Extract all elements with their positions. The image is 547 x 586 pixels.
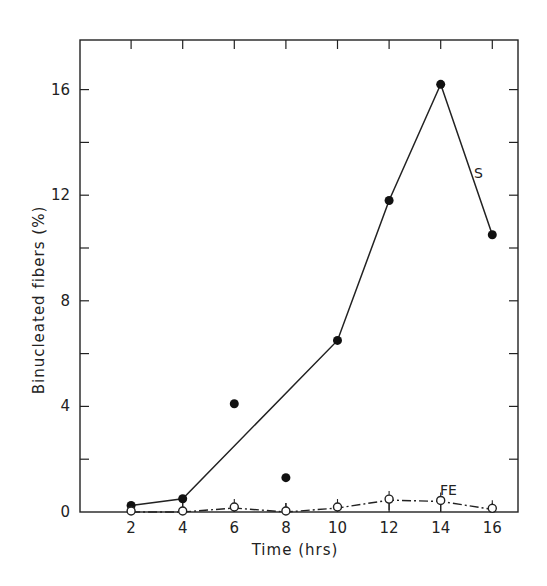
x-tick-label: 16 — [483, 519, 502, 537]
y-tick-label: 8 — [60, 292, 70, 310]
x-tick-label: 10 — [328, 519, 347, 537]
data-point-s — [230, 399, 239, 408]
series-label-s: S — [474, 165, 483, 181]
axis-ticks — [80, 40, 518, 512]
data-point-fe — [230, 503, 238, 511]
tick-labels: 2468101214160481216 — [51, 81, 502, 537]
y-axis-label: Binucleated fibers (%) — [30, 206, 48, 395]
data-point-s — [488, 230, 497, 239]
data-point-s — [281, 473, 290, 482]
data-point-s — [333, 336, 342, 345]
data-point-fe — [488, 504, 496, 512]
y-tick-label: 4 — [60, 397, 70, 415]
x-tick-label: 12 — [380, 519, 399, 537]
data-point-fe — [385, 495, 393, 503]
y-tick-label: 16 — [51, 81, 70, 99]
data-point-s — [385, 196, 394, 205]
data-point-fe — [334, 503, 342, 511]
plot-frame — [80, 40, 518, 512]
data-point-s — [436, 80, 445, 89]
chart: 2468101214160481216 S FE Time (hrs) Binu… — [0, 0, 547, 586]
data-point-s — [178, 494, 187, 503]
series-s — [127, 80, 497, 510]
x-tick-label: 8 — [281, 519, 291, 537]
x-tick-label: 4 — [178, 519, 188, 537]
x-tick-label: 2 — [126, 519, 136, 537]
data-point-fe — [127, 507, 135, 515]
x-tick-label: 14 — [431, 519, 450, 537]
series-label-fe: FE — [440, 482, 457, 498]
x-tick-label: 6 — [230, 519, 240, 537]
x-axis-label: Time (hrs) — [251, 541, 339, 559]
data-point-fe — [179, 507, 187, 515]
y-tick-label: 0 — [60, 503, 70, 521]
y-tick-label: 12 — [51, 186, 70, 204]
data-point-fe — [282, 507, 290, 515]
